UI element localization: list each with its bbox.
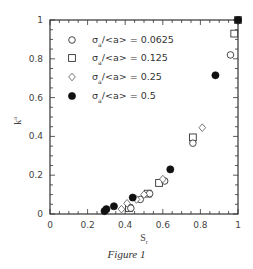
- data-points: [101, 16, 242, 214]
- x-tick-label: 0: [47, 220, 53, 230]
- y-axis-label: ka: [12, 117, 23, 125]
- legend-marker-open-circle: [69, 37, 76, 44]
- data-point-open-circle: [190, 140, 197, 147]
- legend: σa/<a> = 0.0625σa/<a> = 0.125σa/<a> = 0.…: [68, 34, 174, 104]
- y-tick-label: 0.6: [29, 93, 44, 103]
- data-point-filled-circle: [129, 194, 136, 201]
- legend-label: σa/<a> = 0.5: [92, 90, 156, 104]
- y-tick-label: 0.4: [29, 131, 44, 141]
- x-tick-label: 0.6: [156, 220, 171, 230]
- data-point-open-circle: [146, 190, 153, 197]
- data-point-open-square: [231, 30, 238, 37]
- data-point-filled-circle: [110, 203, 117, 210]
- data-point-open-diamond: [199, 124, 206, 132]
- legend-label: σa/<a> = 0.0625: [92, 34, 174, 48]
- data-point-filled-circle: [234, 16, 241, 23]
- axis-ticks: [50, 20, 238, 214]
- legend-label: σa/<a> = 0.25: [92, 71, 162, 85]
- x-tick-label: 1: [235, 220, 241, 230]
- data-point-filled-circle: [103, 206, 110, 213]
- plot-frame: [50, 20, 238, 214]
- y-tick-label: 0.8: [29, 54, 44, 64]
- legend-marker-filled-circle: [68, 92, 75, 99]
- y-tick-label: 0: [37, 209, 43, 219]
- x-tick-label: 0.2: [80, 220, 94, 230]
- x-axis-label: Sr: [140, 232, 148, 245]
- data-point-filled-circle: [212, 72, 219, 79]
- x-tick-label: 0.8: [193, 220, 208, 230]
- scatter-chart: 00.20.40.60.8100.20.40.60.81 σa/<a> = 0.…: [0, 0, 253, 250]
- figure-caption: Figure 1: [0, 248, 253, 260]
- data-point-filled-circle: [167, 166, 174, 173]
- y-tick-label: 0.2: [29, 170, 43, 180]
- data-point-open-diamond: [118, 205, 125, 213]
- x-tick-label: 0.4: [118, 220, 133, 230]
- y-tick-label: 1: [37, 15, 43, 25]
- data-point-open-circle: [227, 52, 234, 59]
- legend-marker-open-diamond: [69, 73, 76, 81]
- legend-marker-open-square: [69, 55, 76, 62]
- legend-label: σa/<a> = 0.125: [92, 52, 168, 66]
